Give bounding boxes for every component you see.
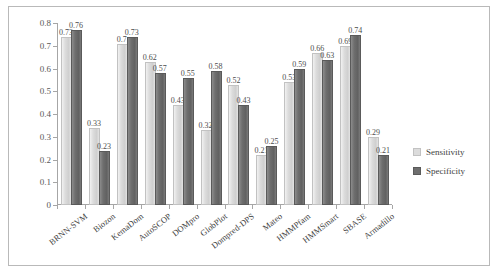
y-axis-tick (53, 160, 57, 161)
plot-area: 00.10.20.30.40.50.60.70.8 0.730.760.330.… (57, 23, 392, 205)
y-axis-tick (53, 91, 57, 92)
chart-frame: 00.10.20.30.40.50.60.70.8 0.730.760.330.… (8, 6, 490, 266)
bar-specificity (183, 78, 194, 205)
y-axis-tick-label: 0.8 (40, 18, 51, 28)
x-axis-tick (141, 205, 142, 209)
bar-specificity (238, 105, 249, 205)
legend-swatch-specificity-icon (413, 167, 421, 175)
bar-specificity (350, 35, 361, 205)
y-axis-tick-label: 0.3 (40, 132, 51, 142)
bar-specificity (211, 71, 222, 205)
y-axis-tick (53, 46, 57, 47)
bar-value-label: 0.63 (320, 51, 334, 60)
bar-value-label: 0.55 (181, 69, 195, 78)
x-axis-category-label: Armadillo (362, 211, 396, 241)
bar-specificity (99, 151, 110, 205)
bar-value-label: 0.21 (376, 146, 390, 155)
bar-value-label: 0.57 (153, 64, 167, 73)
bar-value-label: 0.73 (125, 28, 139, 37)
bar-specificity (294, 69, 305, 205)
bar-value-label: 0.52 (226, 76, 240, 85)
bar-value-label: 0.76 (69, 21, 83, 30)
x-axis-tick (85, 205, 86, 209)
x-axis-tick (364, 205, 365, 209)
x-axis-tick (392, 205, 393, 209)
y-axis-tick (53, 69, 57, 70)
legend-label-specificity: Specificity (426, 166, 465, 176)
x-axis-tick (197, 205, 198, 209)
x-axis-tick (308, 205, 309, 209)
bar-specificity (127, 37, 138, 205)
bar-specificity (266, 146, 277, 205)
y-axis-tick-label: 0.5 (40, 86, 51, 96)
y-axis-tick (53, 23, 57, 24)
bar-value-label: 0.74 (348, 26, 362, 35)
bar-value-label: 0.43 (236, 96, 250, 105)
y-axis-tick (53, 182, 57, 183)
y-axis-tick-label: 0 (47, 200, 52, 210)
bar-specificity (378, 155, 389, 205)
x-axis-tick (280, 205, 281, 209)
bar-value-label: 0.33 (87, 119, 101, 128)
bar-value-label: 0.59 (292, 60, 306, 69)
y-axis-tick (53, 137, 57, 138)
y-axis-tick-label: 0.6 (40, 64, 51, 74)
x-axis-tick (252, 205, 253, 209)
legend-item-specificity: Specificity (413, 166, 465, 176)
bar-value-label: 0.25 (264, 137, 278, 146)
x-axis-category-label: BRNN-SVM (47, 211, 89, 247)
y-axis-tick-label: 0.7 (40, 41, 51, 51)
bar-value-label: 0.62 (143, 53, 157, 62)
y-axis-line (57, 23, 58, 205)
legend-swatch-sensitivity-icon (413, 148, 421, 156)
y-axis-tick-label: 0.1 (40, 177, 51, 187)
legend-label-sensitivity: Sensitivity (426, 147, 465, 157)
y-axis-tick-label: 0.2 (40, 155, 51, 165)
bar-specificity (322, 60, 333, 205)
chart-legend: Sensitivity Specificity (413, 147, 465, 185)
bar-specificity (155, 73, 166, 205)
legend-item-sensitivity: Sensitivity (413, 147, 465, 157)
x-axis-category-label: DOMpro (170, 211, 201, 238)
x-axis-tick (113, 205, 114, 209)
bar-value-label: 0.23 (97, 142, 111, 151)
y-axis-tick (53, 114, 57, 115)
bar-specificity (71, 30, 82, 205)
x-axis-tick (169, 205, 170, 209)
bar-value-label: 0.58 (209, 62, 223, 71)
y-axis-tick-label: 0.4 (40, 109, 51, 119)
x-axis-tick (336, 205, 337, 209)
bar-value-label: 0.29 (366, 128, 380, 137)
x-axis-tick (225, 205, 226, 209)
x-axis-tick (57, 205, 58, 209)
